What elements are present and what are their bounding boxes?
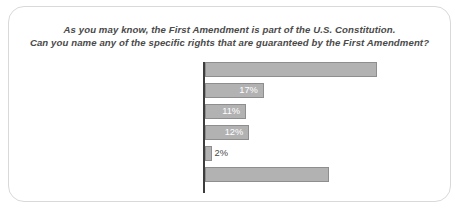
bar-value-label: 2% bbox=[215, 146, 228, 161]
chart-title-line-1: As you may know, the First Amendment is … bbox=[19, 23, 440, 36]
bar-value-label: 39% bbox=[180, 167, 199, 182]
bar-fill bbox=[205, 167, 330, 182]
bar-value-label: 12% bbox=[225, 125, 244, 140]
bar-value-label: 17% bbox=[239, 83, 258, 98]
chart-card: As you may know, the First Amendment is … bbox=[8, 6, 451, 202]
bar-fill bbox=[205, 62, 378, 77]
bar-chart-plot-area: Freedom of Speech 54% Freedom of Religio… bbox=[9, 57, 452, 197]
bar-fill bbox=[205, 146, 212, 161]
bar-value-label: 11% bbox=[222, 104, 240, 119]
bar-value-label: 54% bbox=[180, 62, 199, 77]
chart-title-line-2: Can you name any of the specific rights … bbox=[19, 36, 440, 49]
chart-title: As you may know, the First Amendment is … bbox=[19, 23, 440, 49]
